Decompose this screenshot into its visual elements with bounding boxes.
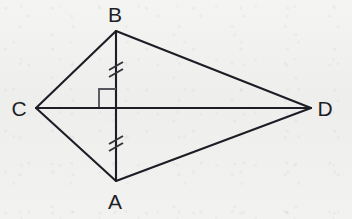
- vertex-label-C: C: [11, 97, 26, 120]
- segment-BD: [116, 31, 311, 108]
- vertex-label-A: A: [108, 190, 122, 213]
- right-angle-marker: [99, 89, 116, 107]
- segment-CB: [36, 31, 116, 108]
- kite-outline-group: [36, 31, 311, 181]
- segment-AC: [36, 108, 116, 181]
- vertex-label-D: D: [317, 97, 332, 120]
- segment-DA: [116, 108, 311, 181]
- vertex-label-B: B: [108, 3, 122, 26]
- geometry-diagram-canvas: B A C D: [0, 0, 352, 219]
- kite-figure: B A C D: [0, 0, 352, 219]
